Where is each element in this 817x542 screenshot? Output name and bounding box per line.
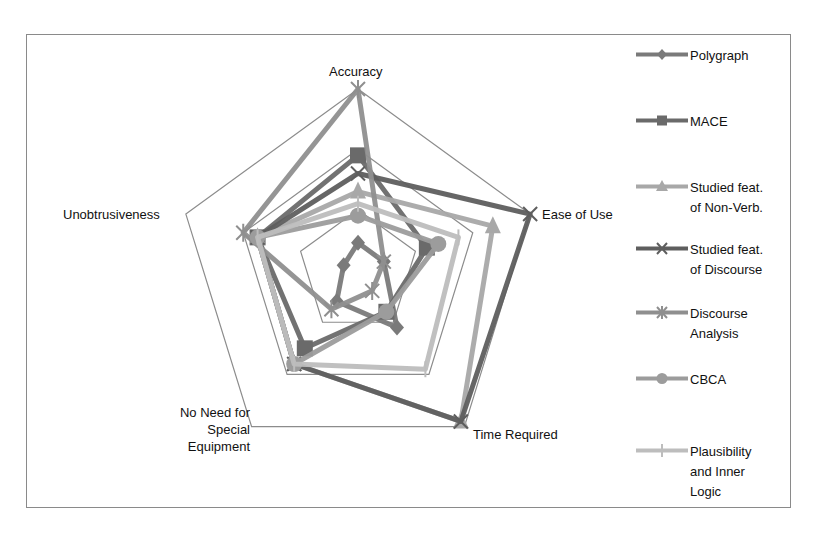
circle-marker-icon bbox=[378, 304, 394, 320]
axis-label-ease-of-use: Ease of Use bbox=[542, 206, 613, 223]
legend-label: Plausibility bbox=[690, 442, 751, 462]
square-marker-icon bbox=[636, 112, 688, 129]
legend-label: CBCA bbox=[690, 370, 726, 390]
legend-item-mace[interactable]: MACE bbox=[636, 112, 728, 132]
legend-item-cbca[interactable]: CBCA bbox=[636, 370, 726, 390]
series-line-5 bbox=[258, 216, 439, 364]
legend-label: Studied feat. bbox=[690, 240, 763, 260]
legend-item-discourse-analysis[interactable]: DiscourseAnalysis bbox=[636, 304, 748, 344]
x-marker-icon bbox=[636, 240, 688, 257]
axis-label-no-need-equipment: No Need for Special Equipment bbox=[160, 404, 250, 455]
legend-item-polygraph[interactable]: Polygraph bbox=[636, 46, 749, 66]
star-marker-icon bbox=[236, 224, 250, 242]
legend-label: Polygraph bbox=[690, 46, 749, 66]
axis-label-line: Equipment bbox=[160, 438, 250, 455]
legend-label: Studied feat. bbox=[690, 178, 763, 198]
legend-label: and Inner bbox=[690, 462, 751, 482]
series-line-6 bbox=[258, 204, 459, 370]
axis-label-accuracy: Accuracy bbox=[329, 63, 382, 80]
axis-label-unobtrusiveness: Unobtrusiveness bbox=[63, 206, 160, 223]
star-marker-icon bbox=[351, 80, 365, 98]
square-marker-icon bbox=[350, 147, 366, 163]
star-marker-icon bbox=[636, 304, 688, 321]
legend-label: of Non-Verb. bbox=[690, 198, 763, 218]
legend-label: of Discourse bbox=[690, 260, 763, 280]
axis-label-time-required: Time Required bbox=[473, 426, 558, 443]
legend-label: Analysis bbox=[690, 324, 748, 344]
legend-item-non-verbal[interactable]: Studied feat.of Non-Verb. bbox=[636, 178, 763, 218]
legend-label: Logic bbox=[690, 482, 751, 502]
legend-item-plausibility[interactable]: Plausibilityand InnerLogic bbox=[636, 442, 751, 502]
diamond-marker-icon bbox=[636, 46, 688, 63]
legend-label: MACE bbox=[690, 112, 728, 132]
axis-label-line: Special bbox=[160, 421, 250, 438]
legend-label: Discourse bbox=[690, 304, 748, 324]
circle-marker-icon bbox=[430, 236, 446, 252]
triangle-marker-icon bbox=[636, 178, 688, 195]
legend-item-discourse-features[interactable]: Studied feat.of Discourse bbox=[636, 240, 763, 280]
plus-marker-icon bbox=[636, 442, 688, 459]
axis-label-line: No Need for bbox=[160, 404, 250, 421]
circle-marker-icon bbox=[636, 370, 688, 387]
